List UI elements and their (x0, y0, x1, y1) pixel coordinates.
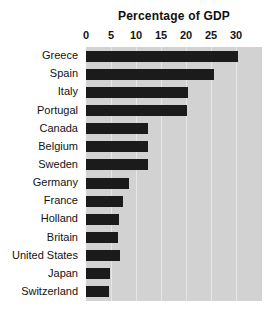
category-label: Britain (0, 231, 78, 243)
gridline (111, 47, 112, 301)
bar (86, 51, 238, 62)
gridline (211, 47, 212, 301)
plot-area (86, 47, 262, 301)
x-tick-label: 0 (83, 29, 89, 41)
category-label: Canada (0, 122, 78, 134)
x-tick-label: 10 (130, 29, 142, 41)
x-tick-label: 15 (155, 29, 167, 41)
category-label: Germany (0, 176, 78, 188)
bar (86, 87, 188, 98)
gridline (186, 47, 187, 301)
bar (86, 196, 123, 207)
category-label: United States (0, 249, 78, 261)
bar (86, 178, 129, 189)
bar (86, 69, 214, 80)
bar (86, 123, 148, 134)
bar (86, 232, 118, 243)
bar (86, 268, 110, 279)
bar (86, 159, 148, 170)
gridline (136, 47, 137, 301)
category-label: Switzerland (0, 285, 78, 297)
gridline (236, 47, 237, 301)
bar (86, 141, 148, 152)
category-label: Portugal (0, 104, 78, 116)
chart-title: Percentage of GDP (86, 9, 262, 23)
category-label: Spain (0, 67, 78, 79)
category-label: Italy (0, 85, 78, 97)
x-tick-label: 30 (230, 29, 242, 41)
x-axis-tick-labels: 051015202530 (0, 29, 275, 45)
category-label: France (0, 194, 78, 206)
bar (86, 214, 119, 225)
bar (86, 286, 109, 297)
category-axis-labels: GreeceSpainItalyPortugalCanadaBelgiumSwe… (0, 47, 82, 301)
x-tick-label: 5 (108, 29, 114, 41)
x-tick-label: 20 (180, 29, 192, 41)
x-tick-label: 25 (205, 29, 217, 41)
gridline (161, 47, 162, 301)
category-label: Japan (0, 267, 78, 279)
bar (86, 105, 187, 116)
category-label: Greece (0, 49, 78, 61)
category-label: Belgium (0, 140, 78, 152)
category-label: Sweden (0, 158, 78, 170)
bar (86, 250, 120, 261)
bar-chart-figure: Percentage of GDP 051015202530 GreeceSpa… (0, 0, 275, 313)
category-label: Holland (0, 212, 78, 224)
